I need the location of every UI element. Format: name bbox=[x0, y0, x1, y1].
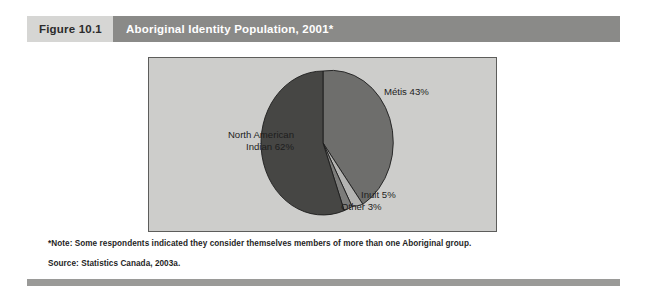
figure-header: Figure 10.1 Aboriginal Identity Populati… bbox=[27, 16, 620, 42]
figure-container: Figure 10.1 Aboriginal Identity Populati… bbox=[0, 0, 647, 297]
figure-source: Source: Statistics Canada, 2003a. bbox=[48, 259, 180, 268]
pie-label-other: Other 3% bbox=[341, 201, 382, 213]
figure-note: *Note: Some respondents indicated they c… bbox=[48, 239, 471, 248]
page-title: Aboriginal Identity Population, 2001* bbox=[126, 23, 333, 35]
figure-bottom-rule bbox=[27, 279, 620, 286]
chart-plot-panel: North American Indian 62% Métis 43% Inui… bbox=[148, 57, 497, 232]
pie-label-metis: Métis 43% bbox=[384, 86, 429, 98]
figure-title-bar: Aboriginal Identity Population, 2001* bbox=[113, 16, 620, 42]
pie-label-nai-line1: North American bbox=[228, 129, 294, 140]
figure-number-label: Figure 10.1 bbox=[27, 16, 113, 42]
pie-chart: North American Indian 62% Métis 43% Inui… bbox=[149, 58, 496, 231]
pie-label-inuit: Inuit 5% bbox=[361, 189, 396, 201]
pie-label-north-american-indian: North American Indian 62% bbox=[169, 129, 294, 152]
pie-label-nai-line2: Indian 62% bbox=[246, 141, 294, 152]
